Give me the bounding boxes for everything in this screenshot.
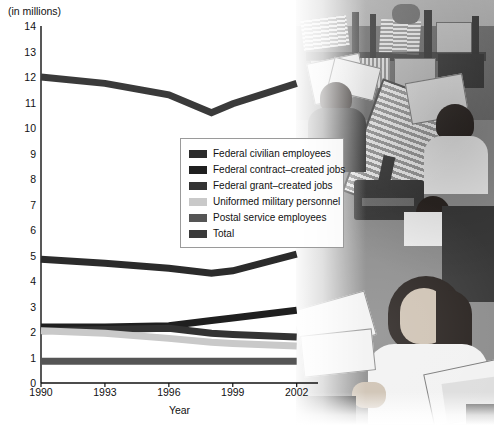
legend-swatch-icon	[189, 214, 207, 222]
legend-item-label: Uniformed military personnel	[213, 194, 340, 210]
legend-item: Total	[189, 226, 335, 242]
legend-swatch-icon	[189, 150, 207, 158]
y-axis-tick-label: 11	[10, 97, 36, 109]
legend-item: Federal civilian employees	[189, 146, 335, 162]
y-axis-tick-label: 5	[10, 250, 36, 262]
y-axis-tick-label: 2	[10, 326, 36, 338]
y-axis-tick-label: 14	[10, 20, 36, 32]
y-axis-tick-label: 4	[10, 275, 36, 287]
y-axis-tick-label: 12	[10, 71, 36, 83]
line-chart: (in millions) 01234567891011121314 19901…	[0, 0, 340, 425]
y-axis-tick-label: 9	[10, 148, 36, 160]
legend-item: Federal contract–created jobs	[189, 162, 335, 178]
legend-item: Uniformed military personnel	[189, 194, 335, 210]
chart-legend: Federal civilian employees Federal contr…	[180, 138, 344, 248]
x-axis-tick-label: 1990	[29, 386, 52, 398]
y-axis-tick-label: 6	[10, 224, 36, 236]
series-line	[41, 310, 297, 327]
legend-item-label: Federal grant–created jobs	[213, 178, 333, 194]
legend-item-label: Total	[213, 226, 234, 242]
y-axis-tick-label: 7	[10, 199, 36, 211]
y-axis-tick-labels: 01234567891011121314	[8, 0, 36, 425]
legend-item-label: Federal civilian employees	[213, 146, 331, 162]
legend-item: Federal grant–created jobs	[189, 178, 335, 194]
x-axis-tick-label: 1993	[93, 386, 116, 398]
x-axis-title: Year	[169, 404, 190, 416]
y-axis-tick-label: 13	[10, 46, 36, 58]
y-axis-tick-label: 1	[10, 352, 36, 364]
x-axis-tick-label: 2002	[285, 386, 308, 398]
legend-swatch-icon	[189, 198, 207, 206]
x-axis-tick-label: 1996	[157, 386, 180, 398]
legend-item-label: Federal contract–created jobs	[213, 162, 345, 178]
legend-item: Postal service employees	[189, 210, 335, 226]
legend-item-label: Postal service employees	[213, 210, 326, 226]
legend-swatch-icon	[189, 230, 207, 238]
y-axis-tick-label: 10	[10, 122, 36, 134]
chart-figure: (in millions) 01234567891011121314 19901…	[0, 0, 494, 425]
y-axis-tick-label: 8	[10, 173, 36, 185]
series-line	[41, 254, 297, 273]
legend-swatch-icon	[189, 166, 207, 174]
series-line	[41, 77, 297, 113]
y-axis-tick-label: 3	[10, 301, 36, 313]
legend-swatch-icon	[189, 182, 207, 190]
x-axis-tick-label: 1999	[221, 386, 244, 398]
